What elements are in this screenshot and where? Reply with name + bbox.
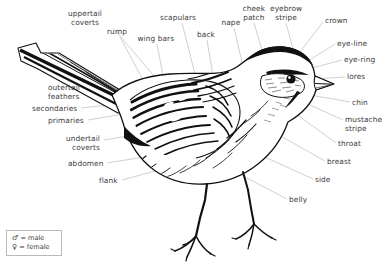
- sex-symbol-legend: ♂ = male ♀ = female: [6, 230, 62, 256]
- label-nape: nape: [222, 19, 241, 28]
- label-mustache-stripe: mustache stripe: [345, 116, 382, 133]
- label-crown: crown: [325, 17, 348, 26]
- label-uppertail-coverts: uppertail coverts: [68, 10, 102, 27]
- bird-topography-diagram: ♂ = male ♀ = female uppertail covertsrum…: [0, 0, 392, 268]
- leader-line-scapulars: [182, 23, 196, 78]
- label-back: back: [197, 31, 215, 40]
- label-belly: belly: [289, 196, 307, 205]
- body-outline: [112, 47, 333, 184]
- legend-female-label: = female: [17, 243, 49, 251]
- label-undertail-coverts: undertail coverts: [66, 135, 100, 152]
- label-cheek-patch: cheek patch: [243, 5, 266, 22]
- label-breast: breast: [327, 158, 351, 167]
- leader-line-crown: [300, 22, 323, 52]
- near-leg: [171, 184, 215, 261]
- label-secondaries: secondaries: [32, 105, 77, 114]
- leader-line-chin: [310, 95, 350, 102]
- legend-male-label: = male: [18, 234, 44, 242]
- legend-row-female: ♀ = female: [12, 243, 57, 252]
- label-lores: lores: [347, 73, 365, 82]
- label-primaries: primaries: [48, 117, 84, 126]
- label-throat: throat: [338, 140, 361, 149]
- label-side: side: [315, 176, 330, 185]
- label-eyebrow-stripe: eyebrow stripe: [270, 5, 302, 22]
- label-eye-ring: eye-ring: [344, 56, 375, 65]
- far-leg: [232, 172, 276, 249]
- label-eye-line: eye-line: [337, 40, 367, 49]
- legs-and-feet: [171, 172, 276, 261]
- label-rump: rump: [107, 28, 127, 37]
- label-wing-bars: wing bars: [138, 35, 175, 44]
- leader-line-eye-ring: [312, 60, 342, 68]
- bird-illustration: [0, 0, 392, 268]
- eye: [286, 74, 295, 83]
- label-abdomen: abdomen: [68, 160, 103, 169]
- leader-line-nape: [234, 28, 243, 66]
- label-outertail-feathers: outertail feathers: [48, 84, 80, 101]
- label-flank: flank: [99, 177, 118, 186]
- legend-row-male: ♂ = male: [12, 234, 57, 243]
- leader-line-back: [207, 40, 213, 76]
- label-chin: chin: [352, 99, 368, 108]
- label-scapulars: scapulars: [160, 14, 196, 23]
